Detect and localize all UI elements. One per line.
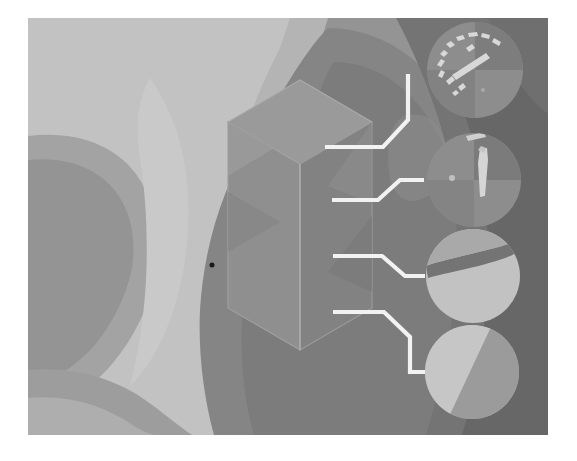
inset-4-content — [425, 325, 519, 419]
inset-1[interactable] — [427, 22, 523, 118]
figure-canvas — [28, 18, 548, 435]
isometric-unit-cell — [228, 80, 372, 350]
inset-4[interactable] — [425, 325, 519, 419]
contour-field-svg — [28, 18, 548, 435]
figure-root — [0, 0, 577, 461]
inset-2-dot — [449, 175, 455, 181]
point-marker — [210, 263, 215, 268]
